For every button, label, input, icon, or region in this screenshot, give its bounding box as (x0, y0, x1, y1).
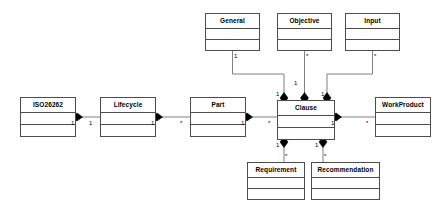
class-name-lifecycle: Lifecycle (101, 98, 155, 113)
class-attributes-general (206, 29, 259, 40)
connector-input-to-clause (327, 51, 373, 100)
multiplicity-m-rec-star: * (324, 153, 326, 160)
class-operations-general (206, 40, 259, 50)
class-attributes-lifecycle (101, 113, 155, 125)
class-attributes-iso26262 (21, 113, 75, 125)
class-operations-workproduct (376, 125, 430, 136)
class-name-requirement: Requirement (248, 163, 304, 178)
class-attributes-clause (278, 116, 334, 128)
multiplicity-m-clause-top-left: 1 (276, 91, 279, 98)
class-box-objective[interactable]: Objective (277, 13, 332, 51)
class-box-lifecycle[interactable]: Lifecycle (100, 97, 156, 137)
class-name-part: Part (191, 98, 245, 113)
multiplicity-m-objective-star: * (306, 53, 308, 60)
class-attributes-objective (278, 29, 331, 40)
multiplicity-m-req-star: * (285, 153, 287, 160)
class-attributes-part (191, 113, 245, 125)
uml-class-diagram: GeneralObjectiveInputISO26262LifecyclePa… (0, 0, 445, 210)
class-operations-iso26262 (21, 125, 75, 136)
class-attributes-recommendation (312, 178, 379, 189)
class-box-general[interactable]: General (205, 13, 260, 51)
multiplicity-m-iso-1: 1 (71, 120, 74, 127)
class-name-input: Input (346, 14, 399, 29)
multiplicity-m-lifecycle-left-1: 1 (89, 120, 92, 127)
multiplicity-m-input-star: * (374, 53, 376, 60)
class-box-part[interactable]: Part (190, 97, 246, 137)
multiplicity-m-part-left-star: * (180, 120, 182, 127)
class-operations-lifecycle (101, 125, 155, 136)
multiplicity-m-req-clause-1: 1 (276, 142, 279, 149)
class-name-iso26262: ISO26262 (21, 98, 75, 113)
class-attributes-input (346, 29, 399, 40)
multiplicity-m-general-1: 1 (234, 53, 237, 60)
class-box-clause[interactable]: Clause (277, 100, 335, 140)
class-name-clause: Clause (278, 101, 334, 116)
class-operations-recommendation (312, 189, 379, 199)
multiplicity-m-part-right-1: 1 (241, 120, 244, 127)
class-box-recommendation[interactable]: Recommendation (311, 162, 380, 200)
multiplicity-m-rec-clause-1: 1 (315, 142, 318, 149)
multiplicity-m-clause-left-star: * (268, 120, 270, 127)
class-box-input[interactable]: Input (345, 13, 400, 51)
class-operations-objective (278, 40, 331, 50)
class-operations-requirement (248, 189, 304, 199)
class-operations-input (346, 40, 399, 50)
class-box-workproduct[interactable]: WorkProduct (375, 97, 431, 137)
multiplicity-m-workproduct-star: * (366, 120, 368, 127)
class-name-objective: Objective (278, 14, 331, 29)
multiplicity-m-clause-right-1: 1 (331, 120, 334, 127)
class-operations-clause (278, 128, 334, 139)
class-operations-part (191, 125, 245, 136)
class-attributes-workproduct (376, 113, 430, 125)
multiplicity-m-lifecycle-rt-1: 1 (151, 120, 154, 127)
class-attributes-requirement (248, 178, 304, 189)
multiplicity-m-objective-1: 1 (294, 80, 297, 87)
multiplicity-m-clause-top-right: 1 (321, 91, 324, 98)
class-name-workproduct: WorkProduct (376, 98, 430, 113)
class-box-requirement[interactable]: Requirement (247, 162, 305, 200)
class-box-iso26262[interactable]: ISO26262 (20, 97, 76, 137)
class-name-general: General (206, 14, 259, 29)
class-name-recommendation: Recommendation (312, 163, 379, 178)
